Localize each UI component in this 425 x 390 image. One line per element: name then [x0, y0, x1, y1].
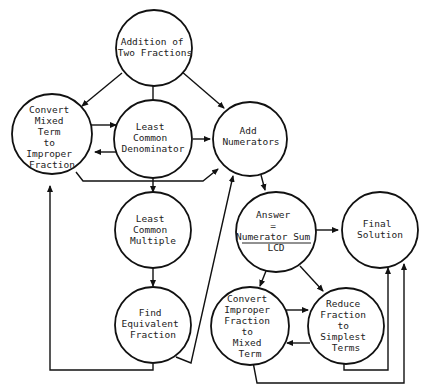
node-lcm-label-2: Common [133, 224, 167, 235]
node-reduce: Reduce Fraction to Simplest Terms [308, 288, 384, 364]
node-reduce-label-2: Fraction [320, 309, 366, 320]
node-convert-improper: Convert Improper Fraction to Mixed Term [211, 287, 289, 365]
node-addition-label-1: Addition of [121, 36, 184, 47]
node-reduce-label-3: to [337, 320, 349, 331]
node-equivalent-label-1: Find [139, 307, 162, 318]
node-convert-mixed: Convert Mixed Term to Improper Fraction [12, 94, 92, 174]
node-convert-improper-label-3: Fraction [224, 315, 270, 326]
node-equivalent-label-3: Fraction [130, 329, 176, 340]
node-addition: Addition of Two Fractions [116, 10, 192, 86]
node-reduce-label-1: Reduce [326, 298, 361, 309]
flowchart-diagram: Addition of Two Fractions Convert Mixed … [0, 0, 425, 390]
node-convert-improper-label-6: Term [239, 348, 262, 359]
node-answer-label-4: LCD [267, 242, 284, 253]
node-lcd: Least Common Denominator [114, 100, 192, 178]
node-convert-mixed-label-1: Convert [29, 104, 69, 115]
node-lcd-label-3: Denominator [122, 143, 185, 154]
node-add-numerators-label-2: Numerators [222, 136, 279, 147]
node-convert-improper-label-2: Improper [224, 304, 270, 315]
node-convert-mixed-label-2: Mixed [35, 115, 64, 126]
node-convert-mixed-label-3: Term [38, 126, 61, 137]
node-answer: Answer = Numerator Sum LCD [236, 192, 316, 272]
node-lcd-label-2: Common [133, 132, 167, 143]
node-add-numerators-label-1: Add [240, 125, 257, 136]
node-lcm: Least Common Multiple [115, 192, 191, 268]
edge-answer-to-convert-improper [260, 271, 266, 286]
node-equivalent-label-2: Equivalent [122, 318, 179, 329]
node-answer-label-3: Numerator Sum [236, 231, 311, 242]
node-convert-mixed-label-4: to [43, 137, 55, 148]
node-lcm-label-3: Multiple [130, 235, 176, 246]
node-convert-improper-label-5: Mixed [233, 337, 262, 348]
node-addition-label-2: Two Fractions [118, 47, 192, 58]
node-answer-label-2: = [270, 220, 276, 231]
edge-answer-to-reduce [300, 266, 323, 291]
node-equivalent: Find Equivalent Fraction [115, 287, 191, 363]
node-final-label-1: Final [363, 218, 392, 229]
node-add-numerators: Add Numerators [213, 102, 287, 176]
edge-add-numerators-to-answer [261, 175, 265, 190]
edge-addition-to-convert-mixed [82, 73, 122, 106]
node-reduce-label-5: Terms [332, 342, 361, 353]
node-convert-improper-label-1: Convert [227, 293, 267, 304]
edge-addition-to-add-numerators [181, 71, 224, 108]
node-final: Final Solution [342, 192, 418, 268]
svg-text:Final Solution: Final Solution [357, 218, 403, 240]
node-answer-label-1: Answer [256, 209, 291, 220]
node-final-label-2: Solution [357, 229, 403, 240]
node-lcd-label-1: Least [136, 121, 165, 132]
node-convert-improper-label-4: to [241, 326, 253, 337]
node-convert-mixed-label-6: Fraction [29, 159, 75, 170]
svg-text:Addition of Two Fraction: Addition of Two Fractions [118, 36, 192, 58]
node-reduce-label-4: Simplest [320, 331, 366, 342]
node-convert-mixed-label-5: Improper [26, 148, 72, 159]
svg-text:Least Common Multi: Least Common Multiple [130, 213, 176, 246]
node-lcm-label-1: Least [136, 213, 165, 224]
